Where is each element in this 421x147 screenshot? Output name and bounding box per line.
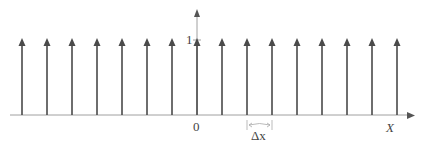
x-axis-arrow-icon [407,112,415,119]
impulse-train-diagram [0,0,421,147]
impulse-arrowhead-icon [244,38,251,46]
x-axis-label: X [386,121,394,134]
impulse-arrowhead-icon [19,38,26,46]
impulse-arrowhead-icon [294,38,301,46]
impulse-arrowhead-icon [44,38,51,46]
impulse-arrowhead-icon [119,38,126,46]
impulse-arrowhead-icon [94,38,101,46]
y-tick-label: 1 [186,33,193,46]
origin-label: 0 [193,120,200,133]
impulse-arrowhead-icon [344,38,351,46]
impulse-arrowhead-icon [369,38,376,46]
impulse-arrowhead-icon [319,38,326,46]
impulse-arrowhead-icon [169,38,176,46]
delta-x-label: Δx [251,129,266,142]
impulse-arrowhead-icon [269,38,276,46]
impulse-arrowhead-icon [394,38,401,46]
impulse-arrowhead-icon [219,38,226,46]
impulse-arrowhead-icon [194,38,201,46]
impulses [19,38,401,115]
impulse-arrowhead-icon [69,38,76,46]
impulse-arrowhead-icon [144,38,151,46]
y-axis-arrow-icon [194,9,200,17]
